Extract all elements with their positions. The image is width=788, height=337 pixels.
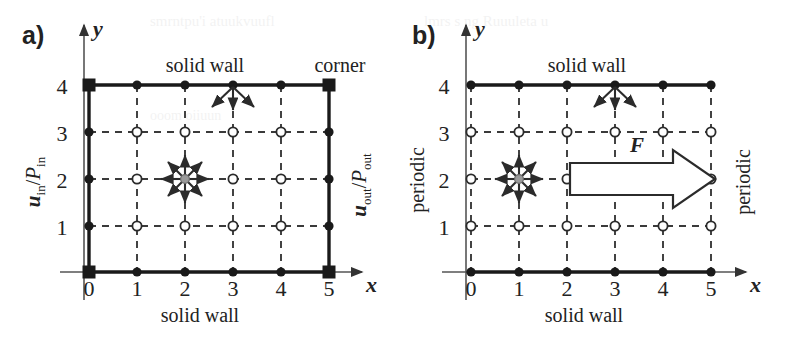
star-center-node-a <box>181 175 190 184</box>
left-periodic-text: periodic <box>406 147 429 213</box>
x-tick-4-b: 4 <box>658 276 669 301</box>
y-tick-2-b: 2 <box>439 168 450 193</box>
x-tick-5-a: 5 <box>324 276 335 301</box>
corner-label-a: corner <box>314 54 365 76</box>
bottom-wall-label-a: solid wall <box>161 304 240 326</box>
wall-incoming-arrows-b <box>594 87 636 110</box>
svg-text:uout/Pout: uout/Pout <box>347 153 374 217</box>
x-tick-3-a: 3 <box>228 276 239 301</box>
outlet-u-subscript: out <box>359 188 374 205</box>
wall-incoming-arrows-a <box>212 87 254 110</box>
y-axis-label-a: y <box>90 16 103 41</box>
panel-b: lmrs s ng Ruuuleta u b) y x <box>394 0 788 337</box>
x-tick-0-a: 0 <box>84 276 95 301</box>
right-periodic-text: periodic <box>732 149 755 215</box>
figure-root: smrntpu'i atuukvuufl ooom oiiuun a) y x <box>0 0 788 337</box>
inlet-u-subscript: in <box>33 185 48 196</box>
page-bleed-artifact-b: lmrs s ng Ruuuleta u <box>424 13 549 29</box>
y-tick-3-a: 3 <box>57 121 68 146</box>
panel-tag-b: b) <box>412 21 436 49</box>
outlet-bc-label: uout/Pout <box>347 153 374 217</box>
top-wall-label-b: solid wall <box>548 54 627 76</box>
y-tick-3-b: 3 <box>439 121 450 146</box>
bottom-wall-label-b: solid wall <box>545 304 624 326</box>
right-periodic-label: periodic <box>732 149 755 215</box>
x-tick-2-a: 2 <box>180 276 191 301</box>
y-tick-4-a: 4 <box>57 74 68 99</box>
y-tick-2-a: 2 <box>57 168 68 193</box>
x-tick-5-b: 5 <box>706 276 717 301</box>
panel-a-canvas: smrntpu'i atuukvuufl ooom oiiuun a) y x <box>0 0 394 337</box>
x-tick-4-a: 4 <box>276 276 287 301</box>
inlet-p-subscript: in <box>33 156 48 167</box>
inlet-u-symbol: u <box>21 195 45 207</box>
x-tick-1-a: 1 <box>132 276 143 301</box>
star-center-node-b <box>515 175 524 184</box>
svg-text:uin/Pin: uin/Pin <box>21 156 48 207</box>
inlet-p-symbol: P <box>21 167 45 181</box>
outlet-p-subscript: out <box>359 153 374 170</box>
x-axis-label-a: x <box>365 272 377 297</box>
top-wall-label-a: solid wall <box>166 54 245 76</box>
y-tick-1-a: 1 <box>57 215 68 240</box>
svg-text:lmrs s ng Ruuuleta u: lmrs s ng Ruuuleta u <box>424 13 549 29</box>
svg-text:smrntpu'i atuukvuufl: smrntpu'i atuukvuufl <box>150 13 275 29</box>
force-label-b: F <box>629 133 644 157</box>
panel-b-canvas: lmrs s ng Ruuuleta u b) y x <box>394 0 788 337</box>
x-tick-2-b: 2 <box>562 276 573 301</box>
outlet-u-symbol: u <box>347 205 371 217</box>
panel-a: smrntpu'i atuukvuufl ooom oiiuun a) y x <box>0 0 394 337</box>
y-tick-1-b: 1 <box>439 215 450 240</box>
x-tick-0-b: 0 <box>466 276 477 301</box>
inlet-bc-label: uin/Pin <box>21 156 48 207</box>
force-arrow-b <box>570 150 715 208</box>
panel-tag-a: a) <box>22 21 44 49</box>
x-tick-1-b: 1 <box>514 276 525 301</box>
x-axis-label-b: x <box>749 272 761 297</box>
y-tick-4-b: 4 <box>439 74 450 99</box>
outlet-p-symbol: P <box>347 170 371 184</box>
left-periodic-label: periodic <box>406 147 429 213</box>
x-tick-3-b: 3 <box>610 276 621 301</box>
